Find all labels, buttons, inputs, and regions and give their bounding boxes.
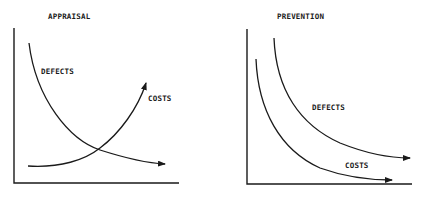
appraisal-panel: APPRAISAL DEFECTS COSTS [14,12,179,183]
appraisal-defects-label: DEFECTS [41,67,74,76]
appraisal-title: APPRAISAL [48,12,91,21]
appraisal-defects-curve [29,43,165,164]
quality-cost-diagram: APPRAISAL DEFECTS COSTS PREVENTION DEFEC… [0,0,425,197]
prevention-defects-curve [274,38,410,158]
prevention-defects-label: DEFECTS [312,103,345,112]
prevention-costs-curve [256,59,392,180]
appraisal-axes [14,28,179,183]
appraisal-costs-label: COSTS [148,94,172,103]
prevention-panel: PREVENTION DEFECTS COSTS [247,12,412,184]
appraisal-costs-curve [28,83,146,166]
prevention-costs-label: COSTS [345,161,369,170]
prevention-title: PREVENTION [277,12,324,21]
